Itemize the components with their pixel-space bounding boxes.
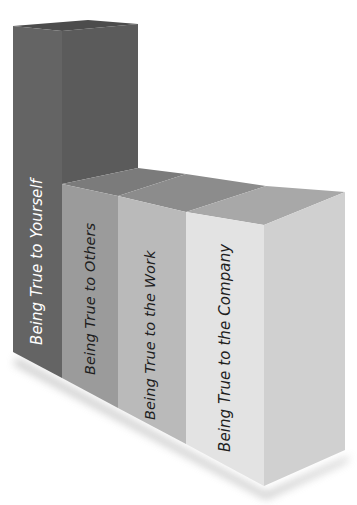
label-being-true-to-the-work: Being True to the Work bbox=[142, 250, 158, 420]
label-being-true-to-others: Being True to Others bbox=[82, 223, 98, 375]
label-being-true-to-yourself: Being True to Yourself bbox=[28, 179, 46, 345]
stepped-blocks-diagram bbox=[0, 0, 357, 505]
block-yourself-side bbox=[62, 24, 138, 184]
label-being-true-to-the-company: Being True to the Company bbox=[216, 244, 234, 452]
block-company-side bbox=[264, 192, 345, 486]
